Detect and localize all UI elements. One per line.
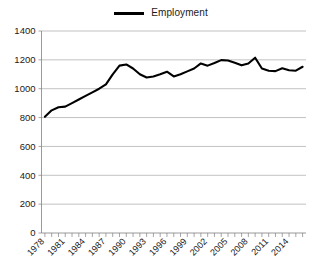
x-tick-label: 1987	[86, 236, 107, 257]
y-tick-label: 600	[20, 141, 36, 152]
plot-area: 0200400600800100012001400 19781981198419…	[0, 0, 322, 278]
y-tick-label: 1200	[14, 54, 35, 65]
y-tick-label: 200	[20, 198, 36, 209]
y-tick-label: 400	[20, 170, 36, 181]
gridlines	[39, 31, 307, 233]
x-tick-label: 1978	[25, 236, 46, 257]
x-tick-label: 1990	[106, 236, 127, 257]
x-tick-label: 1981	[45, 236, 66, 257]
x-axis-tick-labels: 1978198119841987199019931996199920022005…	[25, 236, 290, 257]
x-tick-label: 1993	[127, 236, 148, 257]
series-employment	[45, 58, 303, 117]
x-tick-label: 1999	[167, 236, 188, 257]
y-tick-label: 1000	[14, 83, 35, 94]
x-tick-label: 1996	[147, 236, 168, 257]
x-tick-label: 2011	[249, 236, 270, 257]
y-tick-label: 1400	[14, 25, 35, 36]
x-tick-label: 2005	[208, 236, 229, 257]
x-tick-label: 1984	[66, 236, 87, 257]
employment-line-chart: Employment 0200400600800100012001400 197…	[0, 0, 322, 278]
y-tick-label: 0	[30, 227, 35, 238]
y-tick-label: 800	[20, 112, 36, 123]
y-axis-tick-labels: 0200400600800100012001400	[14, 25, 35, 238]
x-axis-tickmarks	[45, 233, 303, 237]
x-tick-label: 2008	[229, 236, 250, 257]
x-tick-label: 2014	[269, 236, 290, 257]
x-tick-label: 2002	[188, 236, 209, 257]
